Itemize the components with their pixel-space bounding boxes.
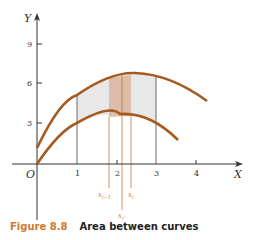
x-tick-1: 1 bbox=[75, 169, 80, 178]
x-tick-3: 3 bbox=[154, 169, 159, 178]
y-tick-9: 9 bbox=[27, 40, 32, 49]
label-x-i: xi bbox=[128, 191, 134, 200]
figure-caption: Figure 8.8Area between curves bbox=[10, 221, 199, 232]
label-x-i-minus-1: xi−1 bbox=[98, 191, 111, 200]
x-tick-2: 2 bbox=[115, 169, 120, 178]
area-between-curves-chart: 9 6 3 1 2 3 4 Y X O xi−1 xi xi' bbox=[0, 0, 259, 240]
x-tick-4: 4 bbox=[194, 169, 199, 178]
y-tick-3: 3 bbox=[27, 119, 32, 128]
x-axis-label: X bbox=[233, 168, 243, 181]
label-x-i-prime: xi' bbox=[118, 212, 125, 221]
origin-label: O bbox=[26, 168, 35, 181]
lower-curve bbox=[37, 111, 178, 164]
y-tick-6: 6 bbox=[27, 79, 32, 88]
figure-number: Figure 8.8 bbox=[10, 221, 67, 232]
y-axis-label: Y bbox=[24, 12, 33, 25]
figure-title: Area between curves bbox=[79, 221, 198, 232]
